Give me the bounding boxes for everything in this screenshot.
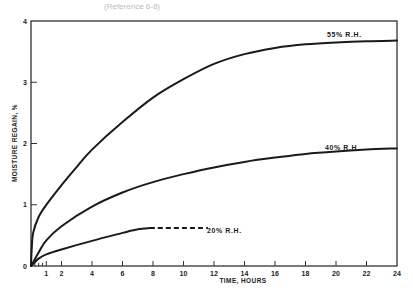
y-axis-title: MOISTURE REGAIN, % xyxy=(11,104,19,182)
x-tick-label: 20 xyxy=(332,270,340,277)
x-tick-label: 6 xyxy=(121,270,125,277)
x-tick-label: 1 xyxy=(44,270,48,277)
x-tick-label: 4 xyxy=(90,270,94,277)
x-tick-label: 16 xyxy=(271,270,279,277)
y-tick-label: 4 xyxy=(23,18,27,25)
series-line-1 xyxy=(31,148,397,266)
x-tick-label: 24 xyxy=(393,270,401,277)
series-label-20: 20% R.H. xyxy=(207,227,242,234)
x-axis: 124681012141618202224 xyxy=(35,261,401,277)
y-tick-label: 3 xyxy=(23,79,27,86)
x-tick-label: 10 xyxy=(180,270,188,277)
x-tick-label: 2 xyxy=(60,270,64,277)
x-tick-label: 8 xyxy=(151,270,155,277)
x-tick-label: 22 xyxy=(363,270,371,277)
y-tick-label: 1 xyxy=(23,201,27,208)
figure-caption: (Reference 6-8) xyxy=(104,2,160,11)
x-axis-title: TIME, HOURS xyxy=(219,277,266,285)
series-label-40: 40% R.H. xyxy=(325,144,360,151)
y-tick-label: 2 xyxy=(23,140,27,147)
moisture-regain-chart: (Reference 6-8) 01234 124681012141618202… xyxy=(0,0,413,296)
y-axis: 01234 xyxy=(23,18,37,270)
x-tick-label: 12 xyxy=(210,270,218,277)
y-tick-label: 0 xyxy=(23,263,27,270)
series-label-55: 55% R.H. xyxy=(327,31,362,38)
series-line-2 xyxy=(31,228,150,266)
x-tick-label: 14 xyxy=(241,270,249,277)
x-tick-label: 18 xyxy=(302,270,310,277)
